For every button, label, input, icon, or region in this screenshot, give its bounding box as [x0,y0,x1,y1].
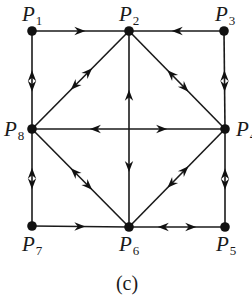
node-label-p7: P7 [21,232,43,258]
node-label-p8: P8 [3,117,24,143]
edges-layer [32,31,225,227]
edge-p8-p2 [32,31,129,129]
node-label-p3: P3 [214,2,235,28]
edge-p3-p4 [224,31,225,129]
node-label-p1: P1 [21,2,42,28]
edge-p8-p6 [32,129,129,227]
node-label-p4: P4 [235,117,252,143]
node-p7 [27,221,37,231]
edge-p6-p4 [129,129,225,227]
node-label-p2: P2 [118,2,139,28]
node-p8 [27,124,37,134]
labels-layer: P1P2P3P4P5P6P7P8 [3,2,252,258]
figure-caption: (c) [116,272,138,295]
node-p4 [220,124,230,134]
node-p3 [219,26,229,36]
directed-graph-diagram: P1P2P3P4P5P6P7P8 (c) [0,0,252,296]
node-label-p5: P5 [215,232,236,258]
edge-p2-p4 [129,31,225,129]
node-label-p6: P6 [118,232,140,258]
node-p5 [220,222,230,232]
node-p6 [124,222,134,232]
